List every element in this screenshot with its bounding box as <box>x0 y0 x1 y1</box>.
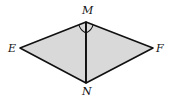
label-e: E <box>7 42 16 55</box>
label-n: N <box>81 85 92 98</box>
geometry-diagram: M E F N <box>0 0 169 99</box>
triangle-emn <box>20 22 86 83</box>
label-m: M <box>81 4 94 17</box>
label-f: F <box>155 42 164 55</box>
triangle-fmn <box>86 22 153 83</box>
